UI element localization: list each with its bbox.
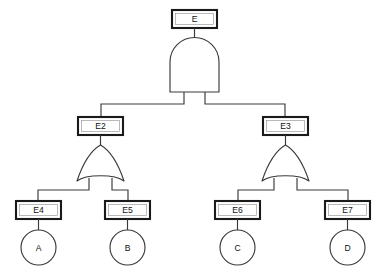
event-label-E: E [192,14,198,24]
connector-or-gate-G2-to-E5 [112,178,128,201]
or-gate-G2-shape[interactable] [77,145,124,181]
event-label-E6: E6 [232,205,243,215]
basic-event-node-B[interactable]: B [110,230,145,265]
fault-tree-diagram: E E2 E3 [0,0,384,280]
event-node-E5[interactable]: E5 [105,201,150,219]
event-label-E2: E2 [95,121,106,131]
basic-event-node-C[interactable]: C [220,230,255,265]
and-gate-G1-shape[interactable] [170,38,219,92]
connector-or-gate-G3-to-E7 [297,178,348,201]
event-node-E6[interactable]: E6 [215,201,260,219]
basic-event-label-D: D [344,243,350,253]
or-gate-G2[interactable] [77,145,124,181]
event-label-E5: E5 [122,205,133,215]
connector-and-gate-to-E3 [205,92,285,117]
event-label-E7: E7 [342,205,353,215]
event-node-E2[interactable]: E2 [78,117,123,135]
and-gate-G1[interactable] [170,38,219,92]
or-gate-G3-shape[interactable] [262,145,309,181]
event-label-E4: E4 [33,205,44,215]
basic-event-label-B: B [125,243,131,253]
or-gate-G3[interactable] [262,145,309,181]
connector-or-gate-G2-to-E4 [38,178,89,201]
event-label-E3: E3 [280,121,291,131]
event-node-E4[interactable]: E4 [16,201,61,219]
connector-or-gate-G3-to-E6 [238,178,274,201]
event-node-E7[interactable]: E7 [325,201,370,219]
basic-event-label-A: A [36,243,42,253]
event-node-E3[interactable]: E3 [263,117,308,135]
basic-event-label-C: C [234,243,240,253]
basic-event-node-D[interactable]: D [330,230,365,265]
basic-event-node-A[interactable]: A [21,230,56,265]
event-node-E[interactable]: E [172,10,217,28]
fault-tree-canvas: E E2 E3 [0,0,384,280]
connector-and-gate-to-E2 [101,92,184,117]
